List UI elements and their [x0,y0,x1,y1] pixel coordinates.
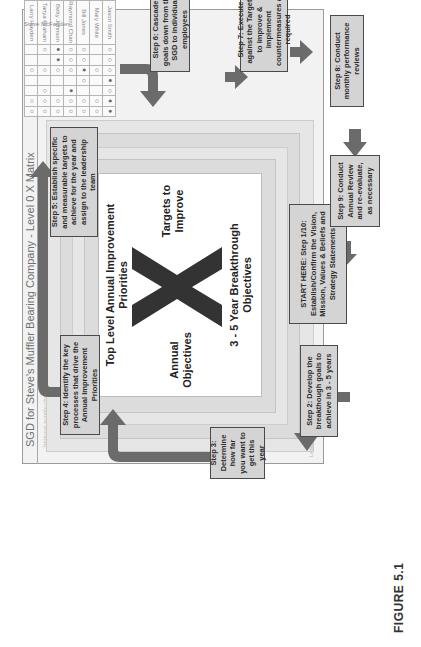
arrow-left-icon [343,129,367,157]
step-6-box: Step 6: Cascade goals down from the SGD … [150,0,190,72]
step-2-box: Step 2: Develop the breakthough goals to… [300,345,338,437]
step-7-box: Step 7: Execute against the Targets to I… [240,0,288,72]
step-3-box: Step 3: Determine how far you want to ge… [210,427,265,479]
step-8-box: Step 8: Conduct monthly performance revi… [330,15,364,107]
figure-stage: FIGURE 5.1 SGD for Steve's Muffler Beari… [0,0,421,647]
step-4-box: Step 4: Identify the key processes that … [60,335,100,435]
step-9-box: Step 9: Conduct Annual Review and re-eva… [330,155,380,227]
arrow-curve-icon [100,409,210,462]
step-5-box: Step 5: Establish specific and measurabl… [50,127,98,237]
arrow-down-icon [290,40,313,64]
